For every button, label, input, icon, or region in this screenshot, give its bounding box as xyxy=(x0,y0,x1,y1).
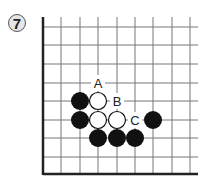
point-label-c: C xyxy=(130,113,139,128)
point-label-a: A xyxy=(94,76,103,91)
black-stone xyxy=(144,111,162,129)
white-stone xyxy=(109,112,126,129)
black-stone xyxy=(71,111,89,129)
black-stone xyxy=(71,92,89,110)
go-board: ABC xyxy=(0,0,210,176)
white-stone xyxy=(90,112,107,129)
black-stone xyxy=(126,129,144,147)
white-stone xyxy=(90,93,107,110)
point-label-b: B xyxy=(113,94,122,109)
black-stone xyxy=(89,129,107,147)
black-stone xyxy=(108,129,126,147)
